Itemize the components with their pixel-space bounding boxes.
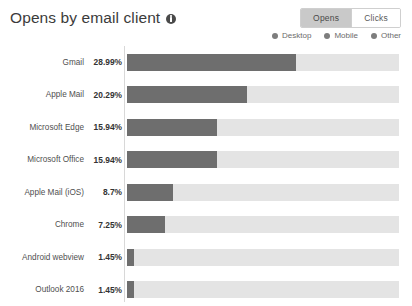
legend-dot-mobile: [324, 33, 330, 39]
bar-segment-desktop[interactable]: [127, 151, 217, 168]
table-row: Microsoft Edge15.94%: [0, 111, 412, 144]
bar-value-label: 7.25%: [84, 220, 125, 230]
bar-track[interactable]: [127, 184, 399, 201]
bar-segment-remainder[interactable]: [134, 249, 399, 266]
legend-dot-other: [371, 33, 377, 39]
legend-label-mobile: Mobile: [334, 31, 358, 40]
bar-track[interactable]: [127, 216, 399, 233]
tab-opens[interactable]: Opens: [301, 9, 351, 27]
bar-track[interactable]: [127, 151, 399, 168]
bar-segment-remainder[interactable]: [165, 216, 399, 233]
bar-segment-desktop[interactable]: [127, 249, 134, 266]
bar-segment-desktop[interactable]: [127, 119, 217, 136]
bar-segment-remainder[interactable]: [134, 281, 399, 298]
table-row: Gmail28.99%: [0, 46, 412, 79]
card-header: Opens by email client Opens Clicks Deskt…: [0, 0, 412, 46]
bar-segment-remainder[interactable]: [247, 86, 399, 103]
bar-value-label: 15.94%: [84, 155, 125, 165]
table-row: Apple Mail20.29%: [0, 79, 412, 112]
bar-track[interactable]: [127, 54, 399, 71]
opens-by-email-client-card: Opens by email client Opens Clicks Deskt…: [0, 0, 412, 306]
bar-segment-desktop[interactable]: [127, 216, 165, 233]
info-icon[interactable]: [166, 14, 176, 24]
bar-segment-desktop[interactable]: [127, 54, 296, 71]
bar-value-label: 8.7%: [84, 187, 125, 197]
bar-segment-remainder[interactable]: [217, 151, 399, 168]
bar-segment-desktop[interactable]: [127, 281, 134, 298]
bar-category-label: Chrome: [0, 220, 84, 229]
legend-label-desktop: Desktop: [282, 31, 311, 40]
bar-chart: Gmail28.99%Apple Mail20.29%Microsoft Edg…: [0, 46, 412, 306]
table-row: Chrome7.25%: [0, 209, 412, 242]
bar-category-label: Android webview: [0, 253, 84, 262]
bar-category-label: Outlook 2016: [0, 285, 84, 294]
bar-value-label: 1.45%: [84, 252, 125, 262]
legend-label-other: Other: [381, 31, 401, 40]
bar-segment-remainder[interactable]: [296, 54, 399, 71]
title-area: Opens by email client: [10, 9, 176, 27]
legend-item-desktop[interactable]: Desktop: [272, 31, 311, 40]
bar-track[interactable]: [127, 281, 399, 298]
bar-category-label: Apple Mail: [0, 90, 84, 99]
legend-dot-desktop: [272, 33, 278, 39]
table-row: Apple Mail (iOS)8.7%: [0, 176, 412, 209]
chart-rows: Gmail28.99%Apple Mail20.29%Microsoft Edg…: [0, 46, 412, 306]
bar-category-label: Gmail: [0, 58, 84, 67]
legend-item-other[interactable]: Other: [371, 31, 401, 40]
table-row: Microsoft Office15.94%: [0, 144, 412, 177]
tab-clicks[interactable]: Clicks: [351, 9, 400, 27]
metric-toggle-group[interactable]: Opens Clicks: [300, 8, 401, 28]
legend-item-mobile[interactable]: Mobile: [324, 31, 358, 40]
bar-track[interactable]: [127, 119, 399, 136]
bar-segment-remainder[interactable]: [173, 184, 399, 201]
bar-segment-remainder[interactable]: [217, 119, 399, 136]
bar-value-label: 15.94%: [84, 122, 125, 132]
table-row: Outlook 20161.45%: [0, 274, 412, 306]
bar-category-label: Apple Mail (iOS): [0, 188, 84, 197]
bar-category-label: Microsoft Office: [0, 155, 84, 164]
bar-value-label: 1.45%: [84, 285, 125, 295]
table-row: Android webview1.45%: [0, 241, 412, 274]
chart-legend: Desktop Mobile Other: [272, 31, 401, 40]
bar-category-label: Microsoft Edge: [0, 123, 84, 132]
bar-segment-desktop[interactable]: [127, 184, 173, 201]
bar-track[interactable]: [127, 86, 399, 103]
bar-track[interactable]: [127, 249, 399, 266]
bar-value-label: 20.29%: [84, 90, 125, 100]
bar-value-label: 28.99%: [84, 57, 125, 67]
bar-segment-desktop[interactable]: [127, 86, 247, 103]
page-title: Opens by email client: [10, 9, 160, 27]
